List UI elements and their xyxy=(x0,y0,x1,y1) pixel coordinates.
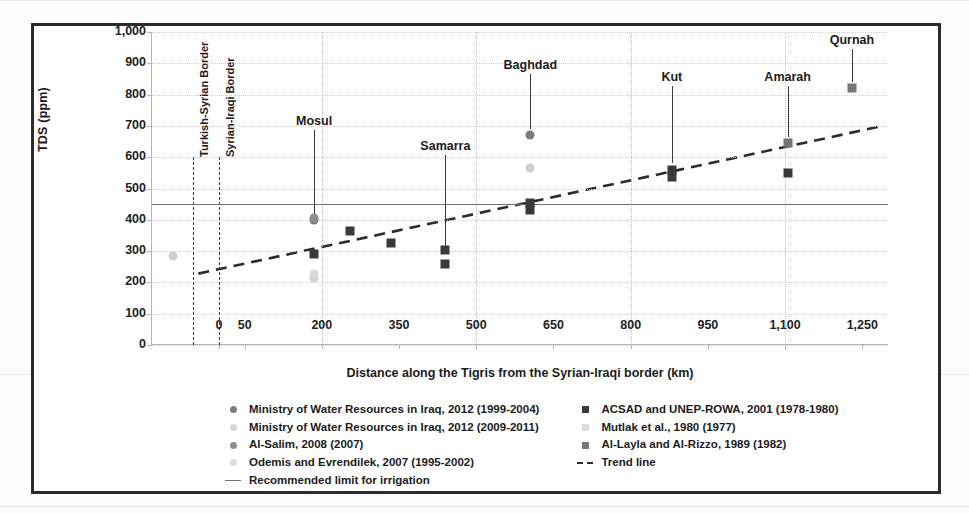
legend-item: Recommended limit for irrigation xyxy=(225,474,539,487)
data-point xyxy=(310,269,319,278)
y-gridline xyxy=(152,32,888,33)
data-point xyxy=(526,206,535,215)
city-label: Mosul xyxy=(296,114,332,128)
y-tick-mark xyxy=(147,95,152,96)
data-point xyxy=(387,239,396,248)
city-leader-line xyxy=(445,155,446,247)
data-point xyxy=(441,260,450,269)
border-marker-label: Syrian-Iraqi Border xyxy=(224,58,236,158)
legend-item: Odemis and Evrendilek, 2007 (1995-2002) xyxy=(225,456,539,469)
x-tick-label: 350 xyxy=(389,318,410,332)
y-gridline xyxy=(152,282,888,283)
legend-swatch-dot-icon xyxy=(225,459,241,466)
legend-label: Recommended limit for irrigation xyxy=(249,474,430,487)
x-tick-mark xyxy=(245,345,246,349)
legend-label: Al-Layla and Al-Rizzo, 1989 (1982) xyxy=(601,438,786,451)
legend-swatch-square-icon xyxy=(577,424,593,431)
y-tick-label: 400 xyxy=(76,212,146,226)
y-tick-label: 500 xyxy=(76,181,146,195)
y-tick-mark xyxy=(147,220,152,221)
legend-label: Ministry of Water Resources in Iraq, 201… xyxy=(249,403,539,416)
city-leader-line xyxy=(852,49,853,83)
y-gridline xyxy=(152,251,888,252)
x-tick-mark xyxy=(399,345,400,349)
city-leader-line xyxy=(314,130,315,214)
y-tick-mark xyxy=(147,32,152,33)
y-gridline xyxy=(152,314,888,315)
y-tick-mark xyxy=(147,345,152,346)
legend-swatch-dot-icon xyxy=(225,424,241,431)
legend-column-left: Ministry of Water Resources in Iraq, 201… xyxy=(225,403,539,487)
x-tick-label: 650 xyxy=(543,318,564,332)
y-tick-label: 1,000 xyxy=(76,24,146,38)
x-tick-label: 200 xyxy=(311,318,332,332)
y-tick-label: 700 xyxy=(76,118,146,132)
border-marker-label: Turkish-Syrian Border xyxy=(198,42,210,157)
y-gridline xyxy=(152,189,888,190)
data-point xyxy=(667,172,676,181)
border-marker-line xyxy=(193,157,194,345)
y-tick-mark xyxy=(147,189,152,190)
y-tick-label: 0 xyxy=(76,337,146,351)
legend-label: Trend line xyxy=(601,456,655,469)
data-point xyxy=(168,251,177,260)
x-tick-mark xyxy=(219,345,220,349)
y-gridline xyxy=(152,345,888,346)
legend-swatch-dot-icon xyxy=(225,442,241,449)
city-label: Qurnah xyxy=(830,33,874,47)
y-gridline xyxy=(152,95,888,96)
x-tick-label: 1,100 xyxy=(769,318,800,332)
x-tick-mark xyxy=(631,345,632,349)
y-tick-label: 200 xyxy=(76,274,146,288)
y-tick-mark xyxy=(147,314,152,315)
x-gridline xyxy=(322,32,323,345)
legend-swatch-square-icon xyxy=(577,442,593,449)
x-tick-label: 50 xyxy=(238,318,252,332)
x-tick-label: 950 xyxy=(697,318,718,332)
recommended-limit-line xyxy=(152,204,888,205)
legend-item: Ministry of Water Resources in Iraq, 201… xyxy=(225,403,539,416)
x-tick-label: 800 xyxy=(620,318,641,332)
legend-item: Al-Salim, 2008 (2007) xyxy=(225,438,539,451)
city-label: Amarah xyxy=(764,70,811,84)
legend-swatch-solid-line-icon xyxy=(225,480,241,481)
legend-column-right: ACSAD and UNEP-ROWA, 2001 (1978-1980)Mut… xyxy=(577,403,838,487)
y-gridline xyxy=(152,220,888,221)
legend-swatch-dashed-line-icon xyxy=(577,462,593,464)
legend-label: Al-Salim, 2008 (2007) xyxy=(249,438,363,451)
x-tick-label: 1,250 xyxy=(847,318,878,332)
y-tick-label: 600 xyxy=(76,149,146,163)
city-label: Kut xyxy=(661,70,682,84)
y-tick-mark xyxy=(147,63,152,64)
city-label: Samarra xyxy=(420,139,470,153)
legend-swatch-square-icon xyxy=(577,406,593,413)
data-point xyxy=(526,131,535,140)
x-tick-mark xyxy=(708,345,709,349)
city-label: Baghdad xyxy=(504,58,557,72)
plot-area: 01002003004005006007008009001,000Turkish… xyxy=(152,32,888,345)
chart-legend: Ministry of Water Resources in Iraq, 201… xyxy=(225,403,885,487)
legend-label: Ministry of Water Resources in Iraq, 201… xyxy=(249,421,539,434)
legend-label: Mutlak et al., 1980 (1977) xyxy=(601,421,735,434)
x-tick-mark xyxy=(862,345,863,349)
legend-label: Odemis and Evrendilek, 2007 (1995-2002) xyxy=(249,456,474,469)
data-point xyxy=(783,168,792,177)
y-tick-mark xyxy=(147,126,152,127)
border-marker-line xyxy=(219,157,220,345)
data-point xyxy=(847,84,856,93)
x-gridline xyxy=(631,32,632,345)
legend-swatch-dot-icon xyxy=(225,406,241,413)
city-leader-line xyxy=(788,86,789,137)
x-tick-label: 500 xyxy=(466,318,487,332)
y-gridline xyxy=(152,126,888,127)
legend-item: Al-Layla and Al-Rizzo, 1989 (1982) xyxy=(577,438,838,451)
x-tick-mark xyxy=(322,345,323,349)
x-tick-mark xyxy=(785,345,786,349)
legend-label: ACSAD and UNEP-ROWA, 2001 (1978-1980) xyxy=(601,403,838,416)
y-tick-mark xyxy=(147,282,152,283)
data-point xyxy=(783,139,792,148)
data-point xyxy=(346,226,355,235)
city-leader-line xyxy=(672,86,673,163)
data-point xyxy=(310,250,319,259)
data-point xyxy=(310,214,319,223)
